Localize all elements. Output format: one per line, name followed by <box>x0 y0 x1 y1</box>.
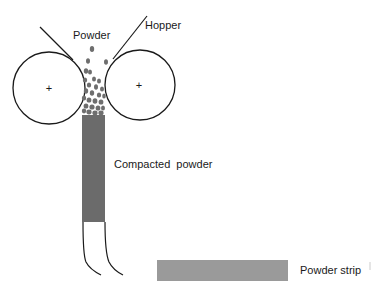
left-roller-center-mark: + <box>46 82 52 94</box>
powder-particles <box>82 46 108 115</box>
compacted-powder-column <box>82 115 105 222</box>
hopper-label: Hopper <box>145 19 181 31</box>
right-guide-curve <box>105 222 123 275</box>
hopper-right-wall <box>113 16 147 59</box>
right-roller: + <box>105 50 175 120</box>
powder-strip-label: Powder strip <box>300 264 361 276</box>
powder-label: Powder <box>73 29 111 41</box>
left-roller: + <box>13 52 85 124</box>
powder-strip <box>157 260 288 281</box>
left-guide-curve <box>83 222 101 275</box>
strip-guides <box>83 222 123 275</box>
hopper-left-wall <box>40 27 73 60</box>
compacted-powder-label: Compacted powder <box>114 158 213 170</box>
right-roller-center-mark: + <box>136 79 142 91</box>
roll-compaction-diagram: + + <box>0 0 372 297</box>
